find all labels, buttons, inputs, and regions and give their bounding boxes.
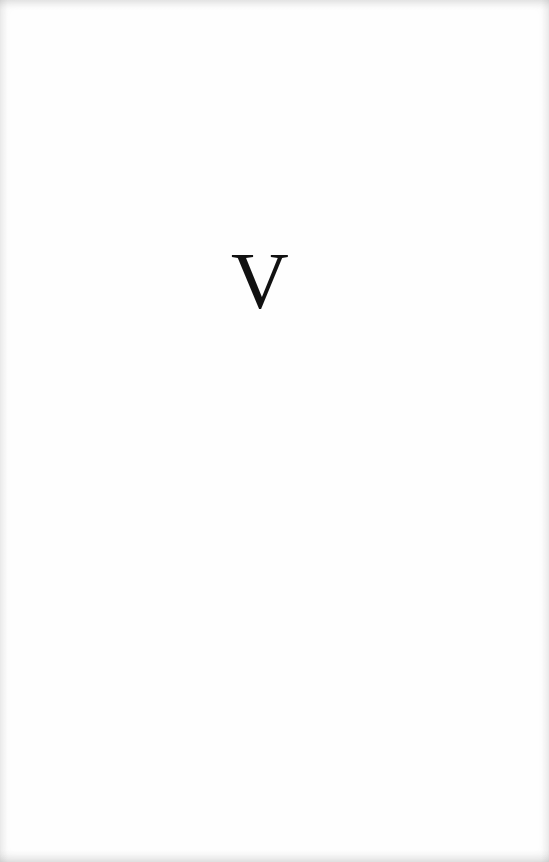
page-edge-left (0, 0, 8, 862)
page-edge-right (541, 0, 549, 862)
book-page: V (0, 0, 549, 862)
page-edge-top (0, 0, 549, 10)
page-edge-bottom (0, 850, 549, 862)
chapter-numeral: V (0, 236, 520, 326)
